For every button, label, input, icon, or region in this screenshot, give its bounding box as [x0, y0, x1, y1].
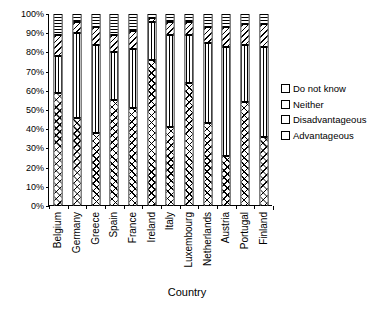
x-axis-tick-label: Netherlands [203, 212, 213, 266]
bar-group: Germany [68, 14, 87, 205]
x-axis-tick-mark [142, 205, 143, 209]
x-axis-tick-mark [105, 205, 106, 209]
stacked-bar[interactable] [128, 14, 137, 205]
bar-segment [92, 27, 99, 44]
bar-group: Greece [86, 14, 105, 205]
bar-segment [204, 43, 211, 124]
bar-segment [167, 127, 174, 206]
bar-segment [55, 35, 62, 56]
legend-item[interactable]: Neither [281, 100, 366, 110]
bar-segment [223, 47, 230, 156]
bar-segment [73, 22, 80, 34]
bar-segment [111, 52, 118, 100]
bar-segment [111, 35, 118, 52]
bar-group: Italy [161, 14, 180, 205]
bar-segment [241, 102, 248, 206]
bar-segment [241, 14, 248, 24]
chart-legend: Do not knowNeitherDisadvantageousAdvanta… [281, 84, 366, 146]
bar-segment [148, 22, 155, 60]
bar-segment [92, 14, 99, 27]
legend-item[interactable]: Advantageous [281, 131, 366, 141]
stacked-bar[interactable] [54, 14, 63, 205]
bar-segment [148, 60, 155, 206]
bar-segment [111, 100, 118, 206]
bar-group: Spain [105, 14, 124, 205]
x-axis-tick-mark [254, 205, 255, 209]
bar-segment [92, 133, 99, 206]
bar-group: France [124, 14, 143, 205]
stacked-bar[interactable] [147, 14, 156, 205]
bar-segment [260, 14, 267, 24]
bar-segment [73, 118, 80, 206]
bar-segment [111, 14, 118, 35]
x-axis-tick-label: Luxembourg [184, 212, 194, 268]
bar-segment [204, 27, 211, 42]
x-axis-tick-label: Belgium [53, 212, 63, 248]
x-axis-tick-label: Portugal [240, 212, 250, 249]
legend-swatch-icon [281, 131, 290, 140]
legend-item[interactable]: Do not know [281, 84, 366, 94]
x-axis-tick-label: Finland [259, 212, 269, 245]
bar-group: Finland [254, 14, 273, 205]
bar-segment [223, 156, 230, 206]
bar-segment [241, 45, 248, 103]
legend-item[interactable]: Disadvantageous [281, 115, 366, 125]
x-axis-tick-label: Greece [91, 212, 101, 245]
bar-segment [223, 14, 230, 27]
bar-segment [185, 35, 192, 83]
x-axis-tick-label: Spain [109, 212, 119, 238]
stacked-bar[interactable] [110, 14, 119, 205]
x-axis-tick-label: Austria [221, 212, 231, 243]
bar-segment [92, 45, 99, 133]
bar-segment [129, 49, 136, 109]
stacked-bar[interactable] [184, 14, 193, 205]
bar-segment [55, 56, 62, 92]
bar-segment [185, 14, 192, 22]
legend-item-label: Advantageous [293, 131, 354, 141]
bar-group: Austria [217, 14, 236, 205]
x-axis-tick-mark [49, 205, 50, 209]
stacked-bar[interactable] [240, 14, 249, 205]
bar-segment [55, 14, 62, 35]
x-axis-tick-mark [236, 205, 237, 209]
bar-segment [129, 14, 136, 31]
bar-segment [185, 83, 192, 206]
stacked-bar[interactable] [203, 14, 212, 205]
legend-item-label: Neither [293, 100, 324, 110]
legend-swatch-icon [281, 84, 290, 93]
plot-area: 0%10%20%30%40%50%60%70%80%90%100%Belgium… [48, 14, 272, 206]
x-axis-tick-label: Ireland [147, 212, 157, 243]
x-axis-tick-label: France [128, 212, 138, 243]
legend-item-label: Do not know [293, 84, 346, 94]
x-axis-tick-mark [217, 205, 218, 209]
bar-segment [167, 14, 174, 22]
bar-group: Netherlands [198, 14, 217, 205]
x-axis-tick-mark [68, 205, 69, 209]
legend-swatch-icon [281, 100, 290, 109]
x-axis-tick-label: Germany [72, 212, 82, 253]
stacked-bar[interactable] [91, 14, 100, 205]
bar-segment [204, 14, 211, 27]
bar-group: Belgium [49, 14, 68, 205]
legend-item-label: Disadvantageous [293, 115, 366, 125]
bar-group: Luxembourg [180, 14, 199, 205]
x-axis-tick-mark [180, 205, 181, 209]
stacked-bar[interactable] [72, 14, 81, 205]
y-axis-tick-label: 100% [21, 10, 49, 19]
bar-segment [260, 137, 267, 206]
x-axis-tick-mark [124, 205, 125, 209]
bar-segment [223, 27, 230, 46]
x-axis-tick-mark [161, 205, 162, 209]
bar-segment [185, 22, 192, 35]
stacked-bar[interactable] [259, 14, 268, 205]
bar-segment [55, 93, 62, 206]
stacked-bar[interactable] [166, 14, 175, 205]
bar-segment [204, 123, 211, 206]
bar-segment [129, 108, 136, 206]
bar-segment [241, 24, 248, 45]
bar-segment [73, 14, 80, 22]
x-axis-title: Country [0, 286, 374, 298]
stacked-bar[interactable] [222, 14, 231, 205]
bar-segment [260, 47, 267, 137]
legend-swatch-icon [281, 115, 290, 124]
